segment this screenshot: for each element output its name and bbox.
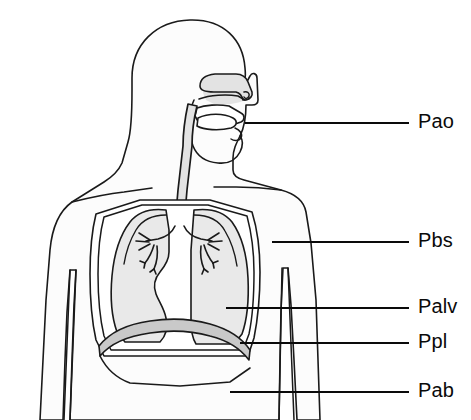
label-palv: Palv [418, 295, 457, 317]
label-pao: Pao [418, 110, 454, 132]
label-ppl: Ppl [418, 330, 447, 352]
left-bronchus-twig-2 [144, 263, 145, 268]
right-bronchus-branch-2 [209, 241, 222, 242]
label-pab: Pab [418, 379, 454, 401]
label-pbs: Pbs [418, 229, 453, 251]
right-bronchus-twig-2 [213, 263, 214, 268]
tongue-outline [197, 114, 236, 129]
anatomy-illustration: Pao Pbs Palv Ppl Pab [0, 0, 471, 420]
left-bronchus-branch-2 [136, 241, 149, 242]
respiratory-pressure-diagram: Pao Pbs Palv Ppl Pab [0, 0, 471, 420]
label-text-group: Pao Pbs Palv Ppl Pab [418, 110, 457, 401]
